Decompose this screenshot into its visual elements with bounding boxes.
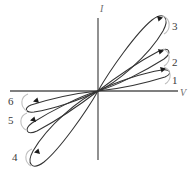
direction-arrowhead-lobe-4 xyxy=(34,148,40,154)
curve-label-3: 3 xyxy=(172,21,178,32)
direction-arrowhead-lobe-3 xyxy=(157,16,163,22)
axis-label-current: I xyxy=(100,4,103,14)
direction-arrowhead-lobe-6 xyxy=(33,97,39,103)
label-bracket-5 xyxy=(21,113,27,130)
direction-arrowhead-lobe-5 xyxy=(30,116,36,122)
curve-label-6: 6 xyxy=(8,96,14,107)
axis-group xyxy=(10,18,178,160)
axis-label-voltage: V xyxy=(180,88,186,98)
plot-canvas xyxy=(0,0,191,171)
curve-label-4: 4 xyxy=(12,152,18,163)
curve-label-2: 2 xyxy=(172,57,178,68)
curve-label-1: 1 xyxy=(172,75,178,86)
label-bracket-4 xyxy=(26,149,32,166)
iv-hysteresis-figure: 3 2 1 6 5 4 I V xyxy=(0,0,191,171)
curve-label-5: 5 xyxy=(8,115,14,126)
lobe-group-upper-right xyxy=(98,16,170,91)
